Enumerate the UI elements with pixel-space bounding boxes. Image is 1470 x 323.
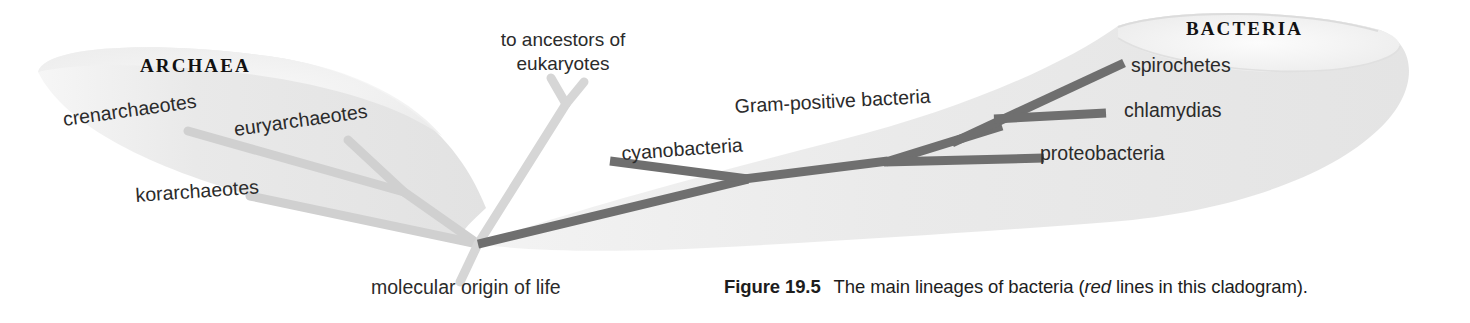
figure-number: Figure 19.5: [724, 276, 821, 297]
tip-label-gram-positive-bacteria: Gram-positive bacteria: [734, 85, 931, 117]
domain-label-bacteria: BACTERIA: [1186, 18, 1303, 39]
caption-italic-word: red: [1084, 276, 1110, 297]
domain-label-archaea: ARCHAEA: [140, 55, 251, 76]
caption-text-after: lines in this cladogram).: [1111, 276, 1308, 297]
eukaryote-note-line-2: eukaryotes: [517, 53, 610, 74]
tip-label-chlamydias: chlamydias: [1124, 99, 1222, 121]
tip-label-spirochetes: spirochetes: [1131, 54, 1231, 76]
branch-chlamydias: [994, 113, 1106, 119]
branch-proteobacteria: [884, 158, 1044, 162]
figure-container: ARCHAEA BACTERIA crenarchaeotes euryarch…: [0, 0, 1470, 323]
tip-label-cyanobacteria: cyanobacteria: [621, 134, 744, 164]
tip-label-proteobacteria: proteobacteria: [1040, 142, 1165, 164]
cladogram-svg: ARCHAEA BACTERIA crenarchaeotes euryarch…: [0, 0, 1470, 323]
figure-caption: Figure 19.5The main lineages of bacteria…: [724, 276, 1308, 298]
origin-of-life-label: molecular origin of life: [371, 276, 561, 299]
branch-eukaryote-fork-right: [566, 82, 584, 104]
tip-label-korarchaeotes: korarchaeotes: [135, 175, 260, 206]
caption-text-before: The main lineages of bacteria (: [834, 276, 1085, 297]
archaea-band: [38, 47, 486, 244]
eukaryote-branches: [460, 78, 584, 282]
eukaryote-note-line-1: to ancestors of: [501, 29, 626, 50]
